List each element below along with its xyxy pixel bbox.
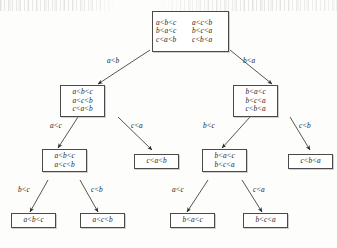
edge-line-rl-left <box>187 180 208 212</box>
permutation: c<a<b <box>72 105 92 114</box>
node-row: c<b<a <box>300 157 320 166</box>
edge-label-r-left: b<c <box>203 121 215 130</box>
permutation: a<c<b <box>54 161 74 170</box>
permutation: c<b<a <box>245 105 265 114</box>
node-row: c<a<b <box>72 105 92 114</box>
edge-label-l-right: c<a <box>131 121 143 130</box>
leaf-a-lt-c-lt-b[interactable]: a<c<b <box>80 213 125 228</box>
edge-label-l-left: a<c <box>50 121 62 130</box>
permutation: c<b<a <box>300 157 320 166</box>
node-b-lt-a-b-lt-c[interactable]: b<a<c b<c<a <box>202 149 247 172</box>
node-row: a<c<b <box>92 216 112 225</box>
edge-line-r-left <box>222 117 250 148</box>
node-row: a<b<c <box>23 216 43 225</box>
permutation: c<b<a <box>192 36 225 45</box>
node-row: b<c<a <box>214 161 234 170</box>
edge-label-ll-left: b<c <box>18 185 30 194</box>
permutation: a<b<c <box>23 216 43 225</box>
node-row: b<a<c <box>182 216 202 225</box>
node-row: c<a<b <box>146 157 166 166</box>
permutation: c<a<b <box>156 36 189 45</box>
permutation: b<a<c <box>182 216 202 225</box>
edge-line-root-left <box>98 50 150 84</box>
node-b-lt-a[interactable]: b<a<c b<c<a c<b<a <box>233 85 278 117</box>
leaf-a-lt-b-lt-c[interactable]: a<b<c <box>11 213 56 228</box>
edge-label-root-left: a<b <box>107 56 119 65</box>
leaf-b-lt-c-lt-a[interactable]: b<c<a <box>243 213 288 228</box>
node-row: b<c<a <box>255 216 275 225</box>
node-a-lt-b[interactable]: a<b<c a<c<b c<a<b <box>60 85 105 117</box>
edge-line-ll-left <box>30 180 48 212</box>
leaf-c-lt-b-lt-a[interactable]: c<b<a <box>288 154 333 169</box>
node-a-lt-b-a-lt-c[interactable]: a<b<c a<c<b <box>42 149 87 172</box>
permutation: b<c<a <box>214 161 234 170</box>
leaf-c-lt-a-lt-b[interactable]: c<a<b <box>134 154 179 169</box>
permutation: c<a<b <box>146 157 166 166</box>
node-row: a<c<b <box>54 161 74 170</box>
edge-label-rl-left: a<c <box>172 185 184 194</box>
edge-label-rl-right: c<a <box>253 185 265 194</box>
permutation: a<c<b <box>92 216 112 225</box>
node-row: c<a<b c<b<a <box>156 36 225 45</box>
edge-label-ll-right: c<b <box>91 185 103 194</box>
leaf-b-lt-a-lt-c[interactable]: b<a<c <box>170 213 215 228</box>
edge-label-r-right: c<b <box>299 121 311 130</box>
permutation: b<c<a <box>255 216 275 225</box>
root-node[interactable]: a<b<c a<c<b b<a<c b<c<a c<a<b c<b<a <box>152 11 229 52</box>
node-row: c<b<a <box>245 105 265 114</box>
edge-label-root-right: b<a <box>243 56 255 65</box>
